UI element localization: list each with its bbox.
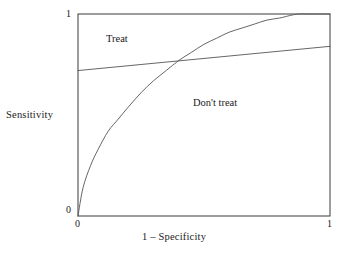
y-axis-tick-1: 1 — [66, 8, 71, 19]
region-label-treat: Treat — [106, 33, 128, 44]
y-axis-tick-0: 0 — [66, 204, 71, 215]
y-axis-title: Sensitivity — [6, 109, 74, 120]
x-axis-tick-0: 0 — [75, 218, 80, 229]
roc-decision-figure: 1 0 0 1 Treat Don't treat 1 – Specificit… — [0, 0, 348, 255]
x-axis-title: 1 – Specificity — [0, 231, 348, 242]
x-axis-tick-1: 1 — [327, 218, 332, 229]
region-label-dont-treat: Don't treat — [193, 97, 237, 108]
plot-canvas — [0, 0, 348, 255]
